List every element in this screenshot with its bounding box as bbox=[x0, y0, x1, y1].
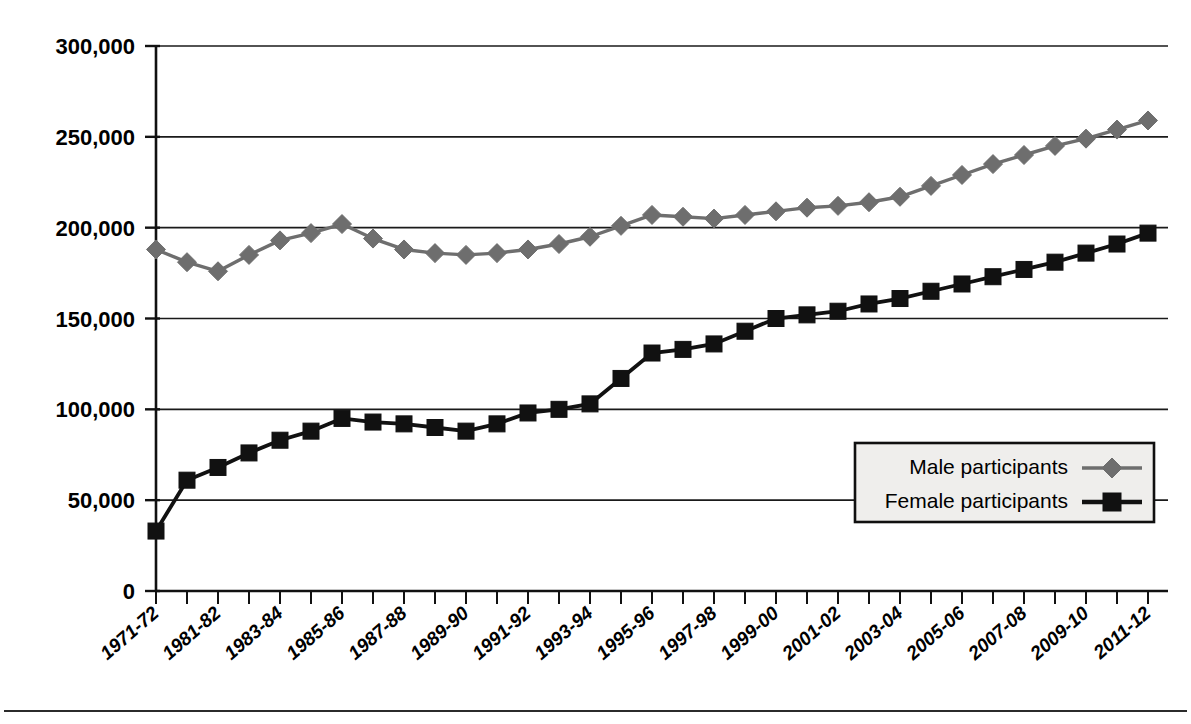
x-tick-label: 1993-94 bbox=[530, 602, 597, 664]
data-point-female bbox=[985, 269, 1001, 285]
data-point-female bbox=[272, 432, 288, 448]
data-point-female bbox=[179, 472, 195, 488]
x-tick-label-group: 2003-04 bbox=[839, 602, 906, 665]
data-point-female bbox=[489, 416, 505, 432]
data-point-male bbox=[364, 229, 383, 248]
data-point-female bbox=[396, 416, 412, 432]
data-point-male bbox=[302, 224, 321, 243]
y-tick-label: 250,000 bbox=[55, 125, 135, 150]
legend-marker-female-square-icon bbox=[1103, 493, 1121, 511]
data-point-male bbox=[488, 244, 507, 263]
data-point-female bbox=[1140, 225, 1156, 241]
series-line-male bbox=[156, 120, 1148, 271]
data-point-male bbox=[643, 205, 662, 224]
data-point-male bbox=[519, 240, 538, 259]
data-point-female bbox=[334, 410, 350, 426]
x-tick-label-group: 1995-96 bbox=[592, 602, 659, 664]
x-tick-label: 1981-82 bbox=[158, 602, 225, 664]
data-point-female bbox=[303, 423, 319, 439]
data-point-male bbox=[333, 215, 352, 234]
data-point-male bbox=[1139, 111, 1158, 130]
x-tick-label: 1997-98 bbox=[654, 602, 721, 664]
data-point-female bbox=[520, 405, 536, 421]
x-tick-label-group: 1983-84 bbox=[220, 602, 287, 664]
data-point-male bbox=[426, 244, 445, 263]
y-tick-label: 200,000 bbox=[55, 216, 135, 241]
data-point-male bbox=[147, 240, 166, 259]
y-tick-label: 300,000 bbox=[55, 34, 135, 59]
data-point-female bbox=[210, 459, 226, 475]
x-tick-label: 1987-88 bbox=[344, 602, 411, 664]
data-point-male bbox=[1015, 146, 1034, 165]
data-point-female bbox=[365, 414, 381, 430]
data-point-female bbox=[768, 311, 784, 327]
data-point-male bbox=[922, 176, 941, 195]
data-point-male bbox=[581, 227, 600, 246]
data-point-female bbox=[644, 345, 660, 361]
data-point-female bbox=[148, 523, 164, 539]
data-point-female bbox=[427, 420, 443, 436]
x-tick-label-group: 2009-10 bbox=[1025, 602, 1092, 665]
data-point-female bbox=[923, 283, 939, 299]
x-tick-label-group: 1997-98 bbox=[654, 602, 721, 664]
x-tick-label-group: 1999-00 bbox=[716, 602, 783, 664]
x-axis-ticks bbox=[156, 591, 1148, 604]
data-point-female bbox=[675, 341, 691, 357]
x-tick-label: 1983-84 bbox=[220, 602, 287, 664]
data-point-female bbox=[1109, 236, 1125, 252]
legend-label-female: Female participants bbox=[885, 489, 1068, 512]
x-tick-label: 1999-00 bbox=[716, 602, 783, 664]
line-chart: 050,000100,000150,000200,000250,000300,0… bbox=[0, 0, 1191, 724]
data-point-male bbox=[395, 240, 414, 259]
x-tick-label-group: 1971-72 bbox=[96, 602, 163, 664]
y-axis-ticks: 050,000100,000150,000200,000250,000300,0… bbox=[55, 34, 160, 604]
x-tick-label: 2005-06 bbox=[901, 602, 968, 665]
data-point-male bbox=[612, 216, 631, 235]
data-point-male bbox=[457, 245, 476, 264]
x-tick-label-group: 2007-08 bbox=[963, 602, 1030, 665]
data-point-male bbox=[240, 245, 259, 264]
data-point-female bbox=[799, 307, 815, 323]
data-point-female bbox=[954, 276, 970, 292]
data-point-male bbox=[767, 202, 786, 221]
x-tick-label-group: 2005-06 bbox=[901, 602, 968, 665]
x-tick-label: 2011-12 bbox=[1089, 602, 1155, 664]
data-point-male bbox=[705, 209, 724, 228]
x-tick-label: 1991-92 bbox=[468, 602, 535, 664]
x-tick-label: 2009-10 bbox=[1025, 602, 1092, 665]
x-tick-label: 1989-90 bbox=[406, 602, 473, 664]
legend-label-male: Male participants bbox=[909, 455, 1068, 478]
data-point-male bbox=[1077, 129, 1096, 148]
data-point-female bbox=[1078, 245, 1094, 261]
x-tick-label: 1985-86 bbox=[282, 602, 349, 664]
x-tick-label-group: 1981-82 bbox=[158, 602, 225, 664]
chart-legend: Male participants Female participants bbox=[855, 443, 1154, 522]
data-point-female bbox=[241, 445, 257, 461]
data-point-female bbox=[892, 291, 908, 307]
data-point-male bbox=[860, 193, 879, 212]
data-point-male bbox=[209, 262, 228, 281]
data-point-female bbox=[861, 296, 877, 312]
data-point-female bbox=[737, 323, 753, 339]
data-point-male bbox=[829, 196, 848, 215]
data-point-female bbox=[458, 423, 474, 439]
data-point-male bbox=[736, 205, 755, 224]
x-tick-label: 2003-04 bbox=[839, 602, 906, 665]
data-point-male bbox=[984, 155, 1003, 174]
x-tick-label-group: 2011-12 bbox=[1089, 602, 1155, 664]
data-point-male bbox=[550, 235, 569, 254]
x-tick-label: 1995-96 bbox=[592, 602, 659, 664]
data-point-male bbox=[1046, 136, 1065, 155]
data-point-female bbox=[1047, 254, 1063, 270]
data-point-female bbox=[551, 401, 567, 417]
x-tick-label: 2007-08 bbox=[963, 602, 1030, 665]
x-tick-label: 2001-02 bbox=[777, 602, 844, 665]
data-point-male bbox=[953, 165, 972, 184]
x-tick-label-group: 1989-90 bbox=[406, 602, 473, 664]
x-tick-label-group: 1991-92 bbox=[468, 602, 535, 664]
data-point-male bbox=[798, 198, 817, 217]
x-tick-label-group: 1987-88 bbox=[344, 602, 411, 664]
y-tick-label: 100,000 bbox=[55, 397, 135, 422]
x-tick-label: 1971-72 bbox=[96, 602, 163, 664]
data-point-male bbox=[891, 187, 910, 206]
